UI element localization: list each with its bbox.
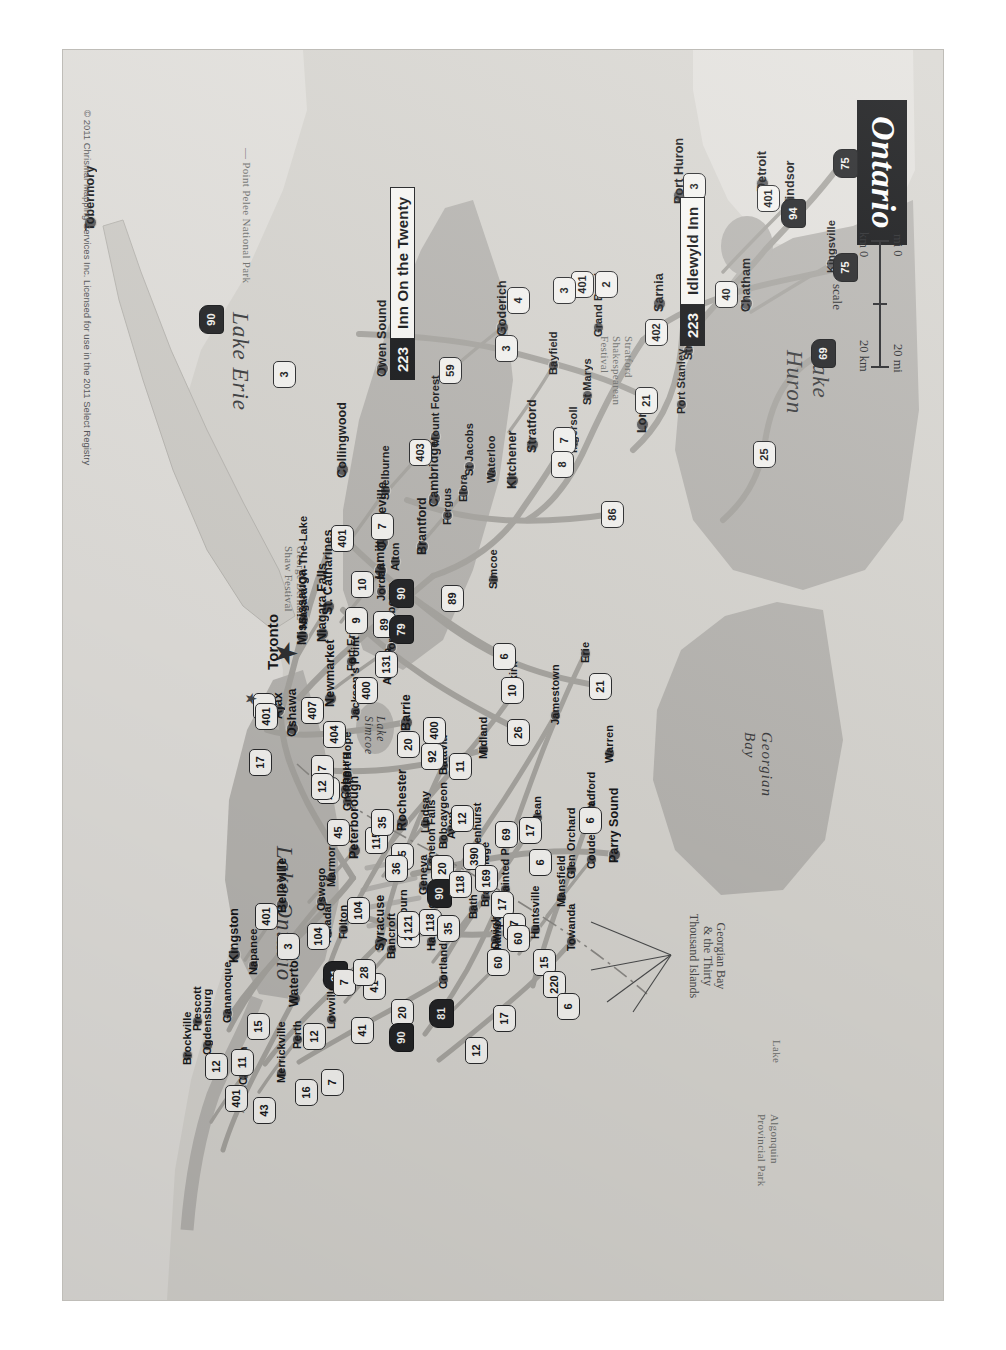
- route-number: 21: [641, 394, 652, 406]
- route-number: 4: [513, 297, 524, 303]
- route-number: 12: [317, 780, 328, 792]
- route-number: 10: [357, 578, 368, 590]
- city-label: Brockville: [181, 1011, 193, 1065]
- city-label: Collingwood: [335, 402, 349, 478]
- city-label: Sarnia: [652, 273, 666, 312]
- inn-name: Idlewyld Inn: [680, 197, 705, 305]
- route-shield: 407: [301, 697, 324, 724]
- route-shield: 4: [507, 287, 530, 314]
- route-number: 40: [721, 288, 732, 300]
- route-shield: 59: [439, 357, 462, 384]
- copyright-notice: © 2011 Chrismar Mapping Services Inc. Li…: [82, 110, 93, 465]
- city-label: Elora: [457, 474, 469, 502]
- route-number: 403: [415, 443, 426, 461]
- city-label: Belleville: [275, 858, 289, 913]
- route-number: 401: [337, 529, 348, 547]
- rotated-map-sheet: Ontario mi 0 20 mi km 0 20 km scale Lake…: [63, 50, 943, 1300]
- route-shield: 3: [495, 335, 518, 362]
- route-shield: 69: [811, 339, 836, 368]
- city-label: Parry Sound: [607, 788, 621, 863]
- route-number: 28: [359, 966, 370, 978]
- scale-tick-start: [871, 240, 889, 242]
- route-number: 401: [261, 907, 272, 925]
- route-shield: 89: [441, 585, 464, 612]
- city-label: Brantford: [415, 497, 429, 555]
- route-number: 86: [607, 508, 618, 520]
- route-shield: 20: [397, 731, 420, 758]
- city-label: St Jacobs: [463, 423, 475, 476]
- route-shield: 36: [385, 855, 408, 882]
- route-number: 25: [759, 448, 770, 460]
- route-shield: 81: [429, 999, 454, 1028]
- city-label: Chatham: [739, 258, 753, 312]
- airport-star-icon: ★: [244, 692, 259, 705]
- scale-km-end: 20 km: [856, 340, 871, 372]
- route-number: 75: [840, 157, 851, 169]
- route-shield: 94: [781, 199, 806, 228]
- route-shield: 3: [553, 277, 576, 304]
- route-shield: 401: [255, 903, 278, 930]
- city-label: Kingston: [227, 908, 241, 963]
- route-number: 220: [549, 975, 560, 993]
- inn-name: Inn On the Twenty: [390, 187, 415, 339]
- city-label: Glen Orchard: [565, 808, 577, 880]
- route-shield: 90: [389, 1023, 414, 1052]
- route-number: 90: [396, 1031, 407, 1043]
- route-number: 15: [253, 1020, 264, 1032]
- inn-callout[interactable]: 223Inn On the Twenty: [390, 187, 415, 380]
- route-shield: 35: [371, 809, 394, 836]
- city-label: Bath: [467, 894, 479, 919]
- route-shield: 90: [199, 305, 224, 334]
- city-label: Kitchener: [505, 430, 519, 489]
- route-shield: 11: [449, 753, 472, 780]
- route-number: 7: [559, 437, 570, 443]
- route-shield: 404: [323, 721, 346, 748]
- city-label: Alton: [389, 542, 401, 571]
- water-label-lake-simcoe: LakeSimcoe: [363, 716, 387, 755]
- route-shield: 17: [519, 817, 542, 844]
- route-shield: 401: [225, 1085, 248, 1112]
- route-shield: 21: [589, 673, 612, 700]
- city-label: Napanee: [247, 928, 259, 975]
- route-number: 15: [539, 956, 550, 968]
- route-number: 94: [788, 207, 799, 219]
- route-number: 7: [327, 1079, 338, 1085]
- route-number: 79: [396, 623, 407, 635]
- route-shield: 7: [371, 513, 394, 540]
- city-label: Bancroft: [385, 913, 397, 959]
- route-shield: 12: [465, 1037, 488, 1064]
- route-number: 404: [329, 725, 340, 743]
- route-shield: 403: [409, 439, 432, 466]
- page-title: Ontario: [864, 116, 902, 229]
- route-shield: 3: [277, 933, 300, 960]
- city-label: Niagara Falls: [315, 563, 329, 642]
- route-number: 390: [469, 847, 480, 865]
- route-number: 35: [443, 922, 454, 934]
- route-shield: 401: [757, 185, 780, 212]
- scale-tick-mid: [873, 303, 887, 305]
- route-number: 60: [513, 932, 524, 944]
- city-label: Huntsville: [529, 885, 541, 939]
- map-title-box: Ontario: [857, 100, 907, 245]
- annotation-georgian-bay: Georgian Bay& the ThirtyThousand Islands: [687, 908, 727, 1004]
- route-shield: 12: [311, 773, 334, 800]
- city-label: Mount Forest: [429, 375, 441, 446]
- inn-callout[interactable]: 223Idlewyld Inn: [680, 197, 705, 346]
- city-label: Mississauga: [295, 570, 309, 645]
- route-number: 43: [259, 1104, 270, 1116]
- route-shield: 401: [255, 703, 278, 730]
- city-label: Barrie: [399, 694, 413, 731]
- route-number: 3: [689, 183, 700, 189]
- route-shield: 6: [579, 807, 602, 834]
- route-shield: 17: [249, 749, 272, 776]
- city-label: Jamestown: [549, 664, 561, 725]
- route-number: 12: [471, 1044, 482, 1056]
- city-label: Rochester: [395, 769, 409, 831]
- route-shield: 7: [321, 1069, 344, 1096]
- route-number: 407: [307, 701, 318, 719]
- route-shield: 131: [375, 651, 398, 678]
- route-number: 118: [455, 876, 466, 894]
- city-label: Perth: [291, 1020, 303, 1049]
- route-number: 20: [437, 862, 448, 874]
- route-number: 401: [231, 1089, 242, 1107]
